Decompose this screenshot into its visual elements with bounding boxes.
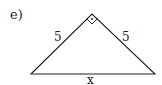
diagram: e) 5 5 x [0,0,162,85]
triangle-figure [0,0,162,85]
problem-label: e) [10,8,23,21]
right-angle-dot [91,18,93,20]
right-side-label: 5 [122,31,130,43]
left-side-label: 5 [54,31,62,43]
base-label: x [87,74,94,85]
